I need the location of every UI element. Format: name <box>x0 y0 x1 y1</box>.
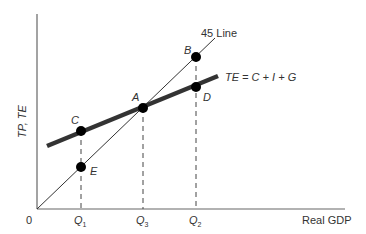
x-axis-label: Real GDP <box>302 214 352 226</box>
point-b <box>191 52 201 62</box>
point-e-label: E <box>90 165 98 177</box>
point-c-label: C <box>71 114 79 126</box>
point-b-label: B <box>184 44 191 56</box>
te-line-label: TE = C + I + G <box>225 71 297 83</box>
point-c <box>76 126 86 136</box>
y-axis-label: TP, TE <box>16 105 28 138</box>
point-a <box>138 103 148 113</box>
q3-label: Q3 <box>136 214 149 228</box>
q1-label: Q1 <box>74 214 87 228</box>
point-d-label: D <box>203 91 211 103</box>
line-45 <box>37 38 215 209</box>
line-45-label: 45 Line <box>201 27 237 39</box>
origin-label: 0 <box>26 214 32 226</box>
q2-label: Q2 <box>189 214 202 228</box>
point-d <box>191 82 201 92</box>
keynesian-cross-diagram: C E A B D 45 Line TE = C + I + G TP, TE … <box>0 0 366 234</box>
point-a-label: A <box>131 91 139 103</box>
point-e <box>76 162 86 172</box>
